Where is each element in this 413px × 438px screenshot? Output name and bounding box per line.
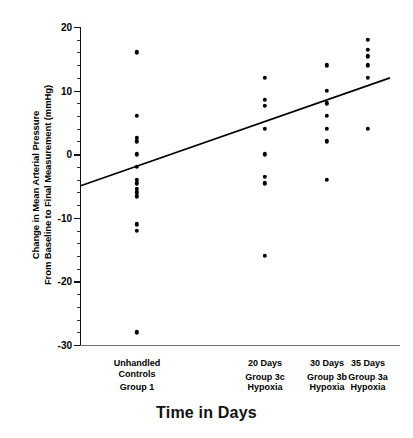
x-group-line-2: Group 3a bbox=[323, 372, 413, 383]
y-axis-label-line1: Change in Mean Arterial Pressure bbox=[30, 85, 42, 285]
y-axis-tick-label: 20 bbox=[61, 22, 72, 33]
x-axis-line bbox=[80, 345, 400, 346]
x-axis-group-labels: UnhandledControlsGroup 120 DaysGroup 3cH… bbox=[0, 358, 413, 402]
y-axis-tick bbox=[74, 345, 80, 346]
y-axis-tick-label: 10 bbox=[61, 85, 72, 96]
y-axis-label: Change in Mean Arterial Pressure From Ba… bbox=[22, 40, 62, 330]
x-axis-title: Time in Days bbox=[0, 404, 413, 422]
x-group-line-1: 35 Days bbox=[323, 358, 413, 369]
x-group-line-1: Unhandled bbox=[92, 358, 182, 369]
plot-area: 20100-10-20-30 bbox=[80, 27, 400, 345]
y-axis-tick-label: -10 bbox=[58, 212, 72, 223]
x-axis-group-group3a: 35 DaysGroup 3aHypoxia bbox=[323, 358, 413, 393]
x-group-line-3: Hypoxia bbox=[323, 382, 413, 393]
y-axis-label-line2: From Baseline to Final Measurement (mmHg… bbox=[42, 85, 54, 285]
y-axis-tick-label: -30 bbox=[58, 340, 72, 351]
y-axis-tick-label: 0 bbox=[66, 149, 72, 160]
x-group-line-2: Controls bbox=[92, 369, 182, 380]
y-axis-tick-label: -20 bbox=[58, 276, 72, 287]
x-axis-group-group1: UnhandledControlsGroup 1 bbox=[92, 358, 182, 393]
scatter-plot-figure: Change in Mean Arterial Pressure From Ba… bbox=[0, 0, 413, 438]
x-group-line-3: Group 1 bbox=[92, 382, 182, 393]
